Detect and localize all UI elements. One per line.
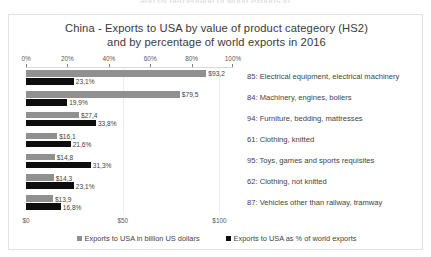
bar-value-percent: 33,8%: [96, 120, 117, 127]
bottom-axis-tick-label: $50: [117, 217, 128, 224]
bar-row-dollars[interactable]: $13,9: [26, 195, 233, 202]
bar-row-dollars[interactable]: $16,1: [26, 133, 233, 140]
bar-percent[interactable]: [26, 203, 61, 210]
legend-swatch-icon: [226, 236, 231, 241]
bottom-axis-tick-label: $0: [22, 217, 29, 224]
plot-area: 0%20%40%60%80%100% $93,223,1%$79,519,9%$…: [26, 67, 233, 213]
bar-row-dollars[interactable]: $79,5: [26, 91, 233, 98]
bar-row-percent[interactable]: 21,6%: [26, 141, 233, 148]
bar-value-percent: 23,1%: [74, 78, 95, 85]
top-axis-tick-label: 40%: [102, 55, 115, 62]
bar-value-percent: 16,8%: [61, 203, 82, 210]
bar-row-dollars[interactable]: $14,3: [26, 174, 233, 181]
bar-row-percent[interactable]: 23,1%: [26, 182, 233, 189]
legend-swatch-icon: [77, 236, 82, 241]
bottom-axis-tick-label: $100: [212, 217, 226, 224]
top-axis-tick-label: 60%: [144, 55, 157, 62]
top-axis-tick-label: 100%: [225, 55, 241, 62]
chart-legend: Exports to USA in billion US dollarsExpo…: [9, 234, 424, 243]
bar-dollars[interactable]: [26, 174, 54, 181]
bar-value-percent: 19,9%: [67, 99, 88, 106]
bar-percent[interactable]: [26, 182, 74, 189]
legend-item[interactable]: Exports to USA as % of world exports: [226, 234, 357, 243]
category-label: 87: Vehicles other than railway, tramway: [247, 198, 382, 208]
category-label: 95: Toys, games and sports requisites: [247, 156, 374, 166]
legend-label: Exports to USA as % of world exports: [234, 234, 357, 243]
bar-group: $27,433,8%: [26, 109, 233, 130]
category-label: 62: Clothing, not knitted: [247, 177, 327, 187]
bar-group: $14,323,1%: [26, 171, 233, 192]
bottom-axis-line: [26, 67, 233, 68]
cut-off-text-artifact: and by percentage of world exports in: [55, 0, 375, 3]
bar-row-percent[interactable]: 31,3%: [26, 162, 233, 169]
bar-dollars[interactable]: [26, 133, 57, 140]
bar-value-dollars: $14,3: [54, 174, 73, 181]
top-axis-tick-label: 20%: [61, 55, 74, 62]
bar-value-dollars: $14,8: [55, 153, 74, 160]
bar-row-dollars[interactable]: $93,2: [26, 70, 233, 77]
bar-value-percent: 21,6%: [71, 140, 92, 147]
bar-percent[interactable]: [26, 78, 74, 85]
bar-percent[interactable]: [26, 162, 91, 169]
bar-value-dollars: $16,1: [57, 132, 76, 139]
legend-item[interactable]: Exports to USA in billion US dollars: [77, 234, 200, 243]
bar-dollars[interactable]: [26, 154, 55, 161]
bottom-axis-dollars: $0$50$100: [26, 215, 233, 227]
bar-row-percent[interactable]: 19,9%: [26, 99, 233, 106]
chart-title-line-1: China - Exports to USA by value of produ…: [9, 21, 424, 35]
bar-group: $16,121,6%: [26, 130, 233, 151]
bar-group: $13,916,8%: [26, 192, 233, 213]
bar-value-dollars: $79,5: [180, 91, 199, 98]
bar-group: $79,519,9%: [26, 88, 233, 109]
bar-percent[interactable]: [26, 120, 96, 127]
bar-row-dollars[interactable]: $27,4: [26, 112, 233, 119]
bar-row-percent[interactable]: 16,8%: [26, 203, 233, 210]
bar-row-percent[interactable]: 23,1%: [26, 78, 233, 85]
category-label: 84: Machinery, engines, boilers: [247, 93, 352, 103]
bar-percent[interactable]: [26, 99, 67, 106]
category-label: 61: Clothing, knitted: [247, 135, 314, 145]
bar-value-dollars: $27,4: [79, 112, 98, 119]
bar-percent[interactable]: [26, 141, 71, 148]
category-label-list: 85: Electrical equipment, electrical mac…: [247, 67, 427, 213]
top-axis-percent: 0%20%40%60%80%100%: [26, 55, 233, 67]
category-label: 85: Electrical equipment, electrical mac…: [247, 72, 399, 82]
bar-group: $14,831,3%: [26, 150, 233, 171]
bar-value-dollars: $93,2: [206, 70, 225, 77]
bar-value-dollars: $13,9: [53, 195, 72, 202]
bar-row-dollars[interactable]: $14,8: [26, 154, 233, 161]
bar-dollars[interactable]: [26, 91, 180, 98]
bar-value-percent: 31,3%: [91, 161, 112, 168]
chart-title-line-2: and by percentage of world exports in 20…: [9, 35, 424, 49]
bar-dollars[interactable]: [26, 195, 53, 202]
chart-container: China - Exports to USA by value of produ…: [8, 14, 423, 250]
category-label: 94: Furniture, bedding, mattresses: [247, 114, 363, 124]
bar-group: $93,223,1%: [26, 67, 233, 88]
bar-value-percent: 23,1%: [74, 182, 95, 189]
top-axis-tick-label: 80%: [185, 55, 198, 62]
legend-label: Exports to USA in billion US dollars: [85, 234, 200, 243]
chart-title: China - Exports to USA by value of produ…: [9, 21, 424, 49]
bar-dollars[interactable]: [26, 70, 206, 77]
bar-dollars[interactable]: [26, 112, 79, 119]
bar-row-percent[interactable]: 33,8%: [26, 120, 233, 127]
top-axis-tick-label: 0%: [21, 55, 30, 62]
